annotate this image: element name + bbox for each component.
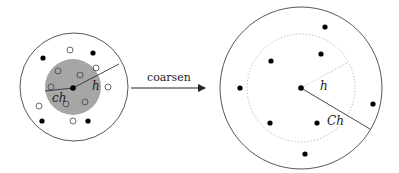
- fine-neighborhood: h ch: [20, 33, 128, 141]
- left-center-point: [70, 85, 76, 91]
- right-label-Ch: Ch: [327, 114, 344, 128]
- arrow-label: coarsen: [147, 71, 191, 84]
- coarsen-diagram: h ch coarsen h Ch: [0, 0, 399, 173]
- coarsen-arrow: coarsen: [131, 71, 205, 88]
- right-filled-points: [237, 24, 375, 156]
- coarse-neighborhood: h Ch: [220, 7, 382, 169]
- right-center-point: [298, 85, 304, 91]
- left-label-ch: ch: [52, 91, 66, 105]
- left-label-h: h: [92, 79, 100, 93]
- right-label-h: h: [320, 79, 328, 93]
